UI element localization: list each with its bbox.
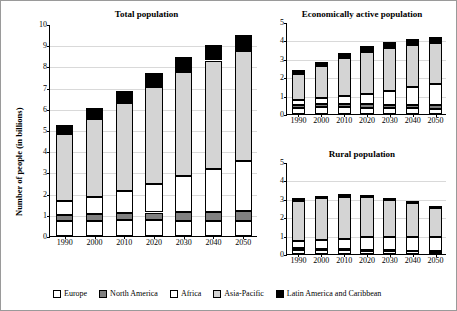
bar-segment bbox=[429, 206, 442, 208]
bar-segment bbox=[292, 198, 305, 200]
x-tick-mark bbox=[184, 236, 185, 239]
bar-segment bbox=[292, 105, 305, 108]
bar-segment bbox=[429, 105, 442, 109]
bar-segment bbox=[315, 107, 328, 114]
x-tick-mark bbox=[390, 114, 391, 117]
bar-segment bbox=[175, 72, 192, 177]
y-tick-mark bbox=[284, 163, 287, 164]
bar-stack bbox=[56, 125, 73, 236]
y-tick-label: 4 bbox=[264, 37, 284, 45]
bar-segment bbox=[205, 212, 222, 221]
bar-segment bbox=[86, 221, 103, 236]
bar-segment bbox=[315, 198, 328, 240]
bar-segment bbox=[205, 45, 222, 61]
y-tick-mark bbox=[284, 78, 287, 79]
bar-segment bbox=[406, 201, 419, 203]
bar-segment bbox=[338, 96, 351, 104]
bar-stack bbox=[429, 37, 442, 114]
y-tick-label: 5 bbox=[264, 159, 284, 167]
y-tick-label: 1 bbox=[264, 233, 284, 241]
legend-swatch bbox=[99, 290, 107, 298]
gridline bbox=[287, 41, 446, 42]
bar-segment bbox=[235, 51, 252, 160]
bar-stack bbox=[175, 57, 192, 236]
legend-swatch bbox=[276, 290, 284, 298]
bar-segment bbox=[86, 119, 103, 197]
bar-segment bbox=[56, 134, 73, 201]
bar-segment bbox=[145, 73, 162, 87]
chart-figure: Number of people (in billions) Total pop… bbox=[0, 0, 457, 311]
chart-legend: EuropeNorth AmericaAfricaAsia-PacificLat… bbox=[53, 289, 390, 298]
bar-segment bbox=[175, 212, 192, 220]
x-tick-label: 1990 bbox=[50, 239, 80, 247]
legend-swatch bbox=[213, 290, 221, 298]
bar-segment bbox=[406, 105, 419, 109]
bar-segment bbox=[338, 53, 351, 58]
x-tick-label: 2040 bbox=[198, 239, 228, 247]
bar-segment bbox=[360, 104, 373, 107]
y-tick-label: 6 bbox=[27, 106, 47, 114]
legend-item: Africa bbox=[170, 289, 201, 298]
x-tick-label: 2000 bbox=[80, 239, 110, 247]
x-tick-mark bbox=[413, 254, 414, 257]
x-tick-mark bbox=[65, 236, 66, 239]
x-tick-mark bbox=[436, 114, 437, 117]
y-tick-mark bbox=[47, 131, 50, 132]
legend-swatch bbox=[53, 290, 61, 298]
bar-stack bbox=[205, 45, 222, 236]
x-tick-mark bbox=[243, 236, 244, 239]
legend-item: North America bbox=[99, 289, 158, 298]
x-tick-mark bbox=[390, 254, 391, 257]
bar-stack bbox=[292, 70, 305, 114]
bar-segment bbox=[86, 214, 103, 221]
bar-segment bbox=[406, 45, 419, 87]
x-tick-mark bbox=[95, 236, 96, 239]
bar-segment bbox=[338, 197, 351, 239]
x-tick-mark bbox=[298, 254, 299, 257]
y-tick-mark bbox=[284, 41, 287, 42]
bar-segment bbox=[292, 70, 305, 73]
y-tick-label: 8 bbox=[27, 63, 47, 71]
y-tick-label: 10 bbox=[27, 21, 47, 29]
x-tick-mark bbox=[213, 236, 214, 239]
bar-segment bbox=[383, 91, 396, 105]
bar-stack bbox=[360, 195, 373, 254]
y-tick-label: 4 bbox=[264, 177, 284, 185]
bar-segment bbox=[360, 52, 373, 93]
y-tick-label: 0 bbox=[27, 233, 47, 241]
bar-segment bbox=[360, 195, 373, 197]
x-tick-mark bbox=[413, 114, 414, 117]
y-tick-mark bbox=[284, 181, 287, 182]
y-tick-mark bbox=[47, 195, 50, 196]
bar-segment bbox=[429, 208, 442, 237]
bar-segment bbox=[56, 221, 73, 236]
bar-segment bbox=[406, 237, 419, 251]
x-tick-mark bbox=[321, 254, 322, 257]
bar-segment bbox=[338, 107, 351, 114]
bar-segment bbox=[235, 211, 252, 221]
bar-segment bbox=[116, 213, 133, 220]
x-tick-label: 2050 bbox=[421, 117, 451, 125]
bar-segment bbox=[383, 48, 396, 90]
bar-segment bbox=[315, 196, 328, 198]
bar-segment bbox=[315, 66, 328, 98]
bar-segment bbox=[383, 200, 396, 237]
bar-stack bbox=[145, 73, 162, 236]
plot-area-rural-population: 0123451990200020102020203020402050 bbox=[286, 163, 446, 255]
x-tick-label: 2050 bbox=[228, 239, 258, 247]
x-tick-label: 2020 bbox=[139, 239, 169, 247]
bar-segment bbox=[145, 87, 162, 185]
y-tick-label: 3 bbox=[264, 196, 284, 204]
y-tick-mark bbox=[284, 97, 287, 98]
bar-segment bbox=[86, 108, 103, 119]
bar-segment bbox=[429, 237, 442, 250]
y-tick-mark bbox=[47, 237, 50, 238]
plot-area-economically-active: 0123451990200020102020203020402050 bbox=[286, 23, 446, 115]
y-tick-label: 1 bbox=[27, 212, 47, 220]
plot-area-total-population: 0123456789101990200020102020203020402050 bbox=[49, 25, 257, 237]
panel-total-population: Total population 01234567891019902000201… bbox=[19, 7, 264, 257]
bar-segment bbox=[205, 61, 222, 169]
x-tick-mark bbox=[344, 254, 345, 257]
bar-stack bbox=[338, 53, 351, 114]
bar-segment bbox=[235, 221, 252, 236]
